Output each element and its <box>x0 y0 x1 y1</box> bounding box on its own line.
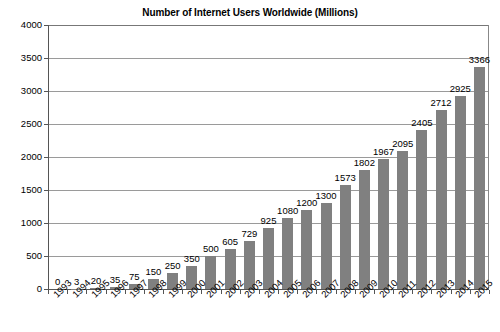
y-axis-tick-label: 3500 <box>2 52 42 63</box>
bar-value-label: 1967 <box>373 146 394 157</box>
bar-value-label: 925 <box>261 215 277 226</box>
bar-value-label: 3366 <box>469 54 490 65</box>
bar-value-label: 1300 <box>315 190 336 201</box>
bar <box>282 218 293 289</box>
bar <box>474 67 485 289</box>
internet-users-bar-chart: Number of Internet Users Worldwide (Mill… <box>0 0 500 332</box>
chart-title: Number of Internet Users Worldwide (Mill… <box>0 7 500 18</box>
y-axis-tick-label: 2000 <box>2 151 42 162</box>
y-axis-labels: 05001000150020002500300035004000 <box>0 25 42 289</box>
bar-value-label: 2925 <box>450 83 471 94</box>
bar <box>436 110 447 289</box>
y-axis-tick-label: 0 <box>2 283 42 294</box>
bar <box>340 185 351 289</box>
bar-value-label: 729 <box>241 228 257 239</box>
x-axis-labels: 1993199419951996199719981999200020012002… <box>48 292 489 332</box>
bar <box>397 151 408 289</box>
bar <box>301 210 312 289</box>
y-axis-tick-label: 500 <box>2 250 42 261</box>
bar-value-label: 350 <box>184 253 200 264</box>
y-axis-tick-label: 1000 <box>2 217 42 228</box>
bar <box>321 203 332 289</box>
bar-value-label: 1573 <box>335 172 356 183</box>
y-axis-tick-label: 1500 <box>2 184 42 195</box>
bar <box>416 130 427 289</box>
bar-value-label: 1200 <box>296 197 317 208</box>
bar-value-label: 500 <box>203 243 219 254</box>
bar-value-label: 2405 <box>411 117 432 128</box>
bar-value-label: 2712 <box>430 97 451 108</box>
bar-value-label: 250 <box>165 260 181 271</box>
bar-value-label: 1802 <box>354 157 375 168</box>
bars-group: 0320357515025035050060572992510801200130… <box>48 25 489 289</box>
y-axis-tick-label: 3000 <box>2 85 42 96</box>
bar-value-label: 1080 <box>277 205 298 216</box>
bar-value-label: 2095 <box>392 138 413 149</box>
y-axis-tick-label: 2500 <box>2 118 42 129</box>
bar-value-label: 150 <box>146 266 162 277</box>
bar <box>378 159 389 289</box>
x-axis-tick <box>489 290 490 294</box>
bar <box>359 170 370 289</box>
plot-area: 0320357515025035050060572992510801200130… <box>48 25 489 289</box>
bar-value-label: 605 <box>222 236 238 247</box>
bar <box>455 96 466 289</box>
y-axis-tick-label: 4000 <box>2 19 42 30</box>
